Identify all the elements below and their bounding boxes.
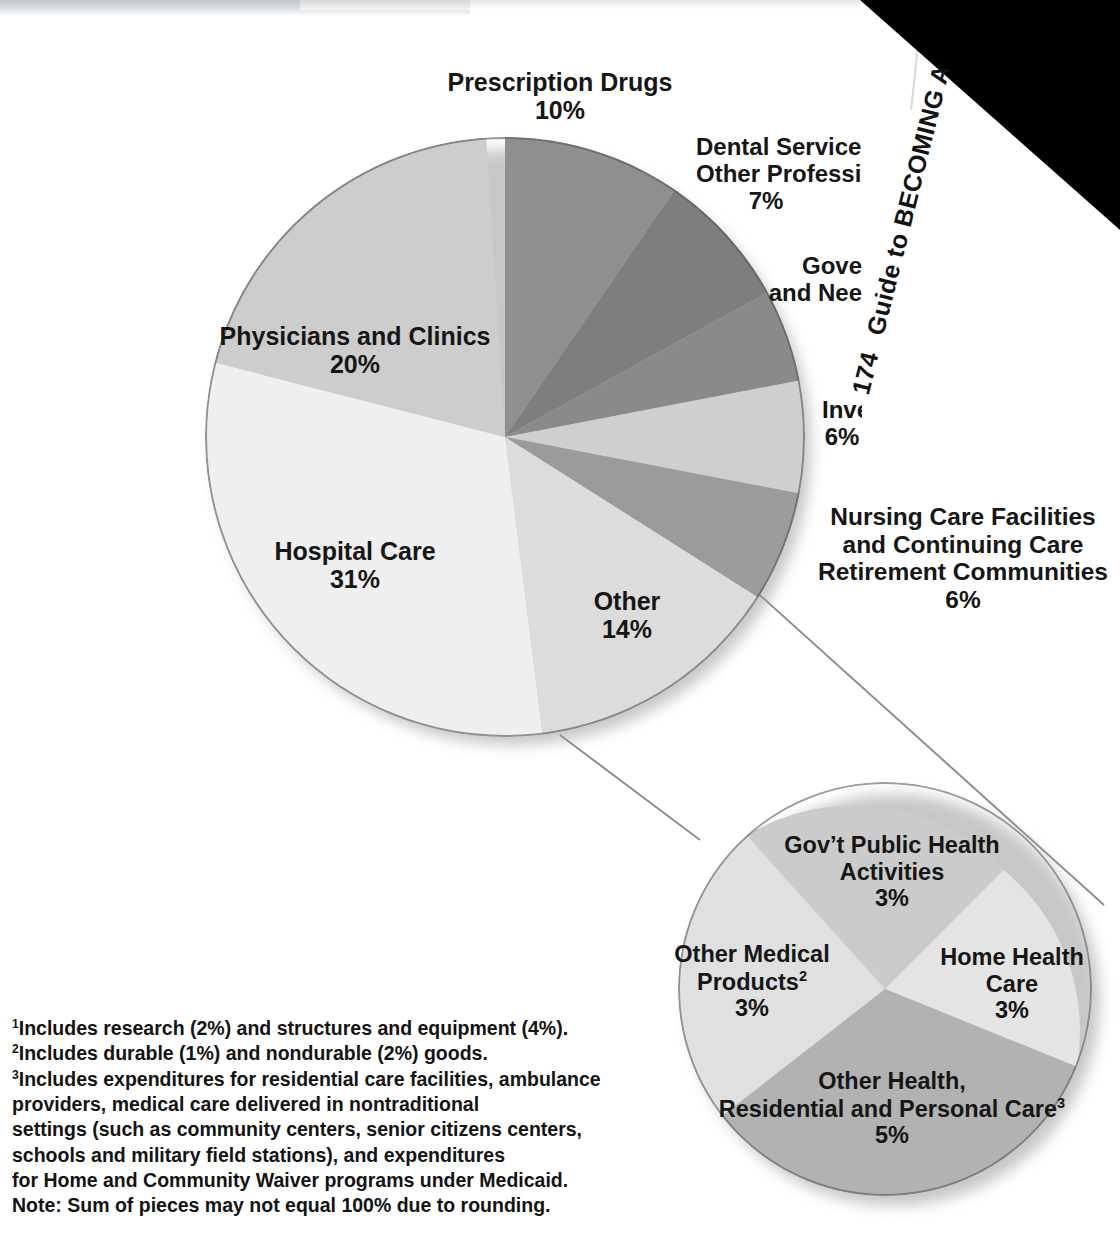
label-home-health-pct: 3% <box>912 997 1112 1024</box>
label-nursing-line1: Nursing Care Facilities <box>806 503 1120 531</box>
footnote-3-line3: settings (such as community centers, sen… <box>12 1117 672 1142</box>
label-other: Other 14% <box>534 587 720 644</box>
label-nursing-pct: 6% <box>806 586 1120 614</box>
label-investment-name: Investn <box>822 396 862 423</box>
footnotes: 1Includes research (2%) and structures a… <box>12 1016 672 1219</box>
label-prescription-drugs-name: Prescription Drugs <box>447 68 672 96</box>
main-pie-chart <box>205 137 815 747</box>
footnote-3-line2: providers, medical care delivered in non… <box>12 1092 672 1117</box>
footnote-2: 2Includes durable (1%) and nondurable (2… <box>12 1041 672 1066</box>
label-other-medical-pct: 3% <box>648 995 856 1022</box>
label-govt-public-health-line2: Activities <box>748 859 1036 886</box>
label-other-health-pct: 5% <box>662 1122 1120 1149</box>
footnote-note: Note: Sum of pieces may not equal 100% d… <box>12 1193 672 1218</box>
main-pie-disc <box>205 137 805 737</box>
label-govt-public-health-line1: Gov’t Public Health <box>748 832 1036 859</box>
label-hospital-care-pct: 31% <box>212 565 498 593</box>
label-home-health-line1: Home Health <box>912 944 1112 971</box>
label-other-medical-sup: 2 <box>799 968 807 984</box>
label-other-health-sup: 3 <box>1057 1095 1065 1111</box>
label-nursing-line2: and Continuing Care <box>806 531 1120 559</box>
label-govt-public-health-pct: 3% <box>748 885 1036 912</box>
label-physicians-pct: 20% <box>210 350 500 378</box>
running-header-title: Guide to BECOMING A <box>861 62 955 338</box>
label-other-name: Other <box>594 587 661 615</box>
label-nursing-line3: Retirement Communities <box>806 558 1120 586</box>
label-hospital-care-name: Hospital Care <box>274 537 435 565</box>
chart-page: 174Guide to BECOMING A <box>0 0 1120 1250</box>
label-other-health-line2-wrap: Residential and Personal Care3 <box>662 1095 1120 1122</box>
footnote-3-line4: schools and military field stations), an… <box>12 1143 672 1168</box>
label-govt-admin: Govе and Neе <box>740 252 862 306</box>
label-dental-line2: Other Professi <box>696 160 862 187</box>
label-dental-pct: 7% <box>696 187 836 214</box>
label-dental-line1: Dental Service <box>696 133 862 160</box>
label-investment-pct: 6% <box>822 423 862 450</box>
label-other-medical-line1: Other Medical <box>648 941 856 968</box>
label-govt-admin-line2: and Neе <box>740 279 862 306</box>
label-govt-admin-line1: Govе <box>740 252 862 279</box>
page-number: 174 <box>846 349 884 397</box>
footnote-3-line5: for Home and Community Waiver programs u… <box>12 1168 672 1193</box>
footnote-3-text-1: Includes expenditures for residential ca… <box>19 1068 601 1090</box>
footnote-3-marker: 3 <box>12 1067 19 1081</box>
footnote-1: 1Includes research (2%) and structures a… <box>12 1016 672 1041</box>
label-other-medical-line2-wrap: Products2 <box>648 968 856 995</box>
label-nursing-care: Nursing Care Facilities and Continuing C… <box>806 503 1120 614</box>
running-header: 174Guide to BECOMING A <box>846 62 956 397</box>
label-prescription-drugs-pct: 10% <box>390 96 730 124</box>
label-home-health-care: Home Health Care 3% <box>912 944 1112 1024</box>
label-other-health-residential: Other Health, Residential and Personal C… <box>662 1068 1120 1148</box>
footnote-1-text: Includes research (2%) and structures an… <box>19 1017 568 1039</box>
footnote-1-marker: 1 <box>12 1017 19 1031</box>
footnote-3-line1: 3Includes expenditures for residential c… <box>12 1067 672 1092</box>
label-other-health-line1: Other Health, <box>662 1068 1120 1095</box>
label-physicians-clinics: Physicians and Clinics 20% <box>210 322 500 379</box>
label-other-medical-products: Other Medical Products2 3% <box>648 941 856 1021</box>
label-other-medical-line2: Products <box>697 968 799 994</box>
label-hospital-care: Hospital Care 31% <box>212 537 498 594</box>
label-prescription-drugs: Prescription Drugs 10% <box>390 68 730 125</box>
label-dental-services: Dental Service Other Professi 7% <box>696 133 862 214</box>
footnote-2-text: Includes durable (1%) and nondurable (2%… <box>19 1042 488 1064</box>
label-investment: Investn 6% <box>822 396 862 450</box>
label-other-pct: 14% <box>534 615 720 643</box>
label-other-health-line2: Residential and Personal Care <box>719 1095 1057 1121</box>
label-physicians-name: Physicians and Clinics <box>220 322 491 350</box>
footnote-2-marker: 2 <box>12 1042 19 1056</box>
scan-artifact-strip-2 <box>300 0 860 10</box>
label-govt-public-health: Gov’t Public Health Activities 3% <box>748 832 1036 912</box>
label-home-health-line2: Care <box>912 971 1112 998</box>
